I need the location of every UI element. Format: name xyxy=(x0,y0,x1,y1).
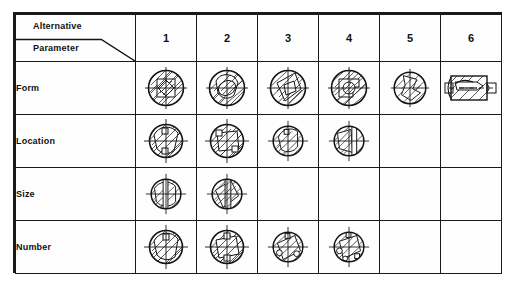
sketch-hatched-circle-with-centerlines-icon xyxy=(136,115,196,167)
sketch-hatched-circle-section-icon xyxy=(258,62,318,114)
cell-size-1 xyxy=(136,168,197,221)
cell-location-5-empty xyxy=(380,115,441,168)
cell-size-6-empty xyxy=(441,168,502,221)
row-label-number: Number xyxy=(16,221,136,274)
column-header-6: 6 xyxy=(441,15,502,62)
sketch-hatched-circle-section-icon xyxy=(197,62,257,114)
morphological-matrix: Alternative Parameter 1 2 3 4 5 6 Form xyxy=(13,12,502,273)
cell-size-4-empty xyxy=(319,168,380,221)
matrix-row-number: Number xyxy=(16,221,502,274)
sketch-hatched-shaft-side-view-icon xyxy=(441,62,501,114)
cell-location-3 xyxy=(258,115,319,168)
corner-label-parameter: Parameter xyxy=(33,43,79,53)
sketch-hatched-circle-with-centerlines-icon xyxy=(258,115,318,167)
row-label-size: Size xyxy=(16,168,136,221)
column-header-1: 1 xyxy=(136,15,197,62)
cell-number-3 xyxy=(258,221,319,274)
cell-size-2 xyxy=(197,168,258,221)
cell-location-2 xyxy=(197,115,258,168)
column-header-3: 3 xyxy=(258,15,319,62)
cell-number-1 xyxy=(136,221,197,274)
cell-form-6 xyxy=(441,62,502,115)
corner-header-cell: Alternative Parameter xyxy=(16,15,136,62)
cell-location-6-empty xyxy=(441,115,502,168)
cell-form-5 xyxy=(380,62,441,115)
sketch-hatched-circle-section-icon xyxy=(319,62,379,114)
row-label-form: Form xyxy=(16,62,136,115)
corner-label-alternative: Alternative xyxy=(33,21,82,31)
sketch-hatched-circle-with-centerlines-icon xyxy=(197,221,257,273)
cell-location-1 xyxy=(136,115,197,168)
sketch-hatched-circle-with-centerlines-icon xyxy=(136,168,196,220)
sketch-hatched-circle-section-icon xyxy=(136,62,196,114)
matrix-row-size: Size xyxy=(16,168,502,221)
cell-size-5-empty xyxy=(380,168,441,221)
cell-form-1 xyxy=(136,62,197,115)
matrix-row-location: Location xyxy=(16,115,502,168)
sketch-hatched-circle-with-centerlines-icon xyxy=(136,221,196,273)
row-label-location: Location xyxy=(16,115,136,168)
sketch-hatched-circle-with-centerlines-icon xyxy=(258,221,318,273)
sketch-hatched-circle-with-centerlines-icon xyxy=(319,115,379,167)
cell-number-2 xyxy=(197,221,258,274)
sketch-hatched-circle-with-centerlines-icon xyxy=(197,115,257,167)
column-header-5: 5 xyxy=(380,15,441,62)
cell-form-3 xyxy=(258,62,319,115)
matrix-table: Alternative Parameter 1 2 3 4 5 6 Form xyxy=(15,14,502,274)
sketch-hatched-circle-with-centerlines-icon xyxy=(319,221,379,273)
cell-number-4 xyxy=(319,221,380,274)
sketch-hatched-circle-section-icon xyxy=(380,62,440,114)
cell-number-5-empty xyxy=(380,221,441,274)
cell-form-4 xyxy=(319,62,380,115)
cell-form-2 xyxy=(197,62,258,115)
cell-location-4 xyxy=(319,115,380,168)
cell-number-6-empty xyxy=(441,221,502,274)
sketch-hatched-circle-with-centerlines-icon xyxy=(197,168,257,220)
column-header-2: 2 xyxy=(197,15,258,62)
matrix-row-form: Form xyxy=(16,62,502,115)
matrix-header-row: Alternative Parameter 1 2 3 4 5 6 xyxy=(16,15,502,62)
column-header-4: 4 xyxy=(319,15,380,62)
cell-size-3-empty xyxy=(258,168,319,221)
